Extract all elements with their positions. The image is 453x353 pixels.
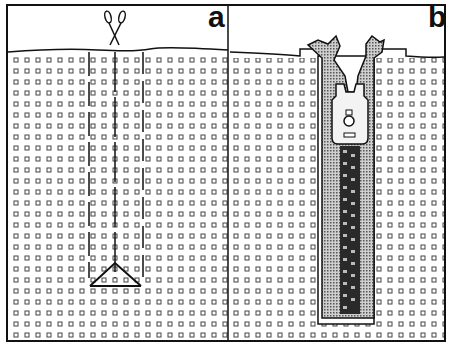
panel-b [230, 36, 444, 342]
zipper-slider [332, 84, 368, 144]
zipper-teeth [340, 146, 360, 314]
grid-pattern [8, 52, 228, 342]
diagram-canvas [0, 0, 453, 353]
panel-label-a: a [208, 2, 225, 32]
scissors-icon [104, 10, 127, 45]
fabric-edge [8, 48, 228, 52]
panel-a [8, 10, 228, 342]
panel-label-b: b [428, 2, 446, 32]
